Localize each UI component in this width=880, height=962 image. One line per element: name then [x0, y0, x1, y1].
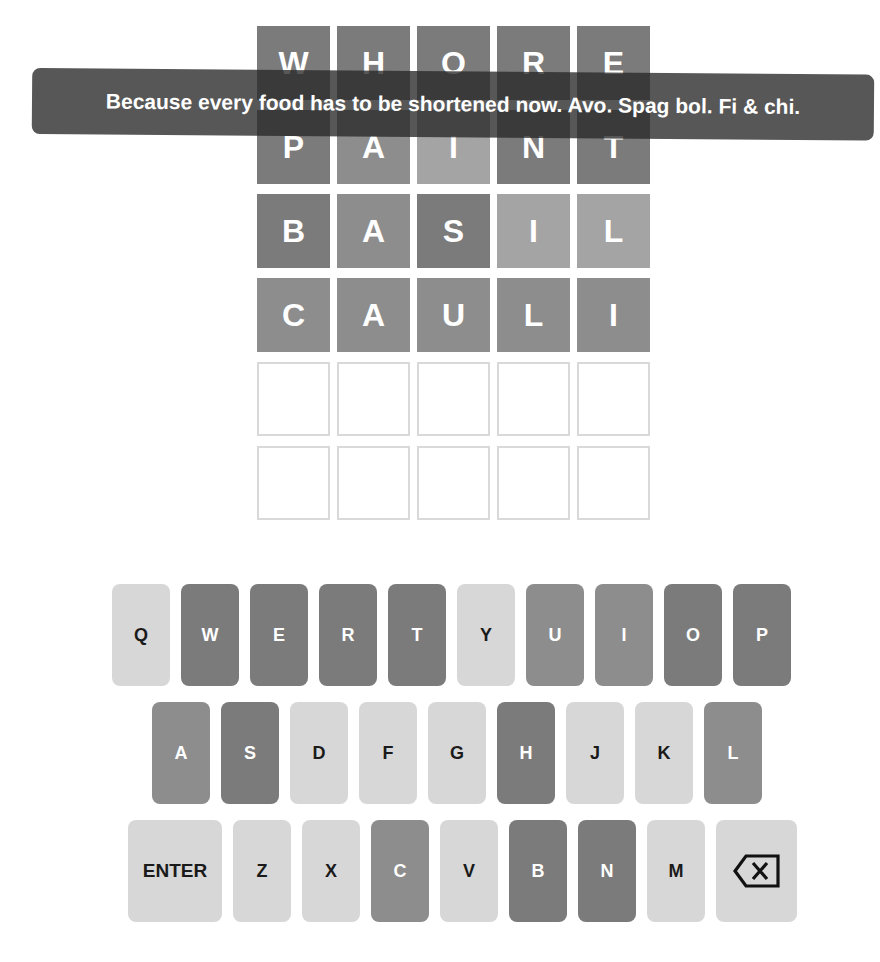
letter-tile: B	[257, 194, 330, 268]
board-row: CAULI	[257, 278, 652, 352]
letter-tile: A	[337, 194, 410, 268]
key-e[interactable]: E	[250, 584, 308, 686]
key-i[interactable]: I	[595, 584, 653, 686]
key-j[interactable]: J	[566, 702, 624, 804]
letter-tile: I	[497, 194, 570, 268]
key-l[interactable]: L	[704, 702, 762, 804]
key-u[interactable]: U	[526, 584, 584, 686]
empty-tile	[337, 446, 410, 520]
key-p[interactable]: P	[733, 584, 791, 686]
toast-message: Because every food has to be shortened n…	[32, 68, 874, 141]
key-w[interactable]: W	[181, 584, 239, 686]
letter-tile: U	[417, 278, 490, 352]
letter-tile: A	[337, 278, 410, 352]
key-z[interactable]: Z	[233, 820, 291, 922]
key-r[interactable]: R	[319, 584, 377, 686]
keyboard-row-3: ENTERZXCVBNM	[128, 820, 797, 922]
key-a[interactable]: A	[152, 702, 210, 804]
key-t[interactable]: T	[388, 584, 446, 686]
letter-tile: I	[577, 278, 650, 352]
key-g[interactable]: G	[428, 702, 486, 804]
enter-key[interactable]: ENTER	[128, 820, 222, 922]
key-q[interactable]: Q	[112, 584, 170, 686]
empty-tile	[257, 362, 330, 436]
key-o[interactable]: O	[664, 584, 722, 686]
keyboard-row-2: ASDFGHJKL	[152, 702, 762, 804]
letter-tile: L	[577, 194, 650, 268]
empty-tile	[417, 446, 490, 520]
key-k[interactable]: K	[635, 702, 693, 804]
backspace-icon	[732, 853, 782, 889]
key-s[interactable]: S	[221, 702, 279, 804]
key-f[interactable]: F	[359, 702, 417, 804]
empty-tile	[497, 362, 570, 436]
key-b[interactable]: B	[509, 820, 567, 922]
letter-tile: S	[417, 194, 490, 268]
key-h[interactable]: H	[497, 702, 555, 804]
empty-tile	[257, 446, 330, 520]
empty-tile	[577, 362, 650, 436]
backspace-key[interactable]	[716, 820, 797, 922]
empty-tile	[577, 446, 650, 520]
key-x[interactable]: X	[302, 820, 360, 922]
empty-tile	[497, 446, 570, 520]
key-m[interactable]: M	[647, 820, 705, 922]
board-row	[257, 446, 652, 520]
key-c[interactable]: C	[371, 820, 429, 922]
empty-tile	[337, 362, 410, 436]
key-v[interactable]: V	[440, 820, 498, 922]
key-d[interactable]: D	[290, 702, 348, 804]
key-y[interactable]: Y	[457, 584, 515, 686]
letter-tile: C	[257, 278, 330, 352]
keyboard-row-1: QWERTYUIOP	[112, 584, 791, 686]
board-row: BASIL	[257, 194, 652, 268]
empty-tile	[417, 362, 490, 436]
board-row	[257, 362, 652, 436]
key-n[interactable]: N	[578, 820, 636, 922]
letter-tile: L	[497, 278, 570, 352]
toast-text: Because every food has to be shortened n…	[106, 90, 800, 119]
